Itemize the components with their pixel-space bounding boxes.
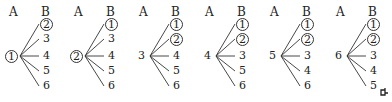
tree-panel-6: AB612345	[327, 0, 391, 102]
leaf-node: 2	[301, 33, 314, 46]
leaf-node: 3	[367, 50, 380, 61]
column-label-a: A	[205, 6, 214, 18]
tree-panel-3: AB312456	[130, 0, 194, 102]
root-node: 2	[70, 50, 83, 63]
leaf-node: 2	[367, 33, 380, 46]
tree-panel-2: AB213456	[65, 0, 129, 102]
column-label-b: B	[106, 6, 115, 18]
leaf-node: 1	[367, 18, 380, 31]
leaf-node: 2	[40, 18, 53, 31]
column-label-b: B	[41, 6, 50, 18]
leaf-node: 1	[301, 18, 314, 31]
root-node: 4	[201, 50, 214, 61]
leaf-node: 3	[105, 33, 118, 44]
root-node: 3	[135, 50, 148, 61]
column-label-b: B	[171, 6, 180, 18]
leaf-node: 5	[236, 65, 249, 76]
column-label-b: B	[302, 6, 311, 18]
leaf-node: 3	[40, 33, 53, 44]
leaf-node: 6	[105, 80, 118, 91]
tree-panel-1: AB123456	[0, 0, 64, 102]
leaf-node: 4	[301, 65, 314, 76]
root-node: 5	[266, 50, 279, 61]
leaf-node: 4	[105, 50, 118, 61]
leaf-node: 2	[236, 33, 249, 46]
leaf-node: 5	[367, 80, 380, 91]
column-label-a: A	[270, 6, 279, 18]
column-label-a: A	[9, 6, 18, 18]
column-label-a: A	[74, 6, 83, 18]
leaf-node: 4	[40, 50, 53, 61]
leaf-node: 3	[236, 50, 249, 61]
leaf-node: 5	[40, 65, 53, 76]
leaf-node: 2	[170, 33, 183, 46]
leaf-node: 1	[105, 18, 118, 31]
column-label-a: A	[336, 6, 345, 18]
column-label-b: B	[368, 6, 377, 18]
leaf-node: 6	[40, 80, 53, 91]
column-label-a: A	[139, 6, 148, 18]
root-node: 1	[5, 50, 18, 63]
leaf-node: 5	[105, 65, 118, 76]
end-mark-icon	[380, 88, 389, 96]
leaf-node: 1	[236, 18, 249, 31]
leaf-node: 3	[301, 50, 314, 61]
column-label-b: B	[237, 6, 246, 18]
leaf-node: 4	[170, 50, 183, 61]
leaf-node: 1	[170, 18, 183, 31]
root-node: 6	[332, 50, 345, 61]
tree-panel-4: AB412356	[196, 0, 260, 102]
leaf-node: 6	[170, 80, 183, 91]
leaf-node: 6	[301, 80, 314, 91]
tree-panel-5: AB512346	[261, 0, 325, 102]
leaf-node: 5	[170, 65, 183, 76]
leaf-node: 6	[236, 80, 249, 91]
leaf-node: 4	[367, 65, 380, 76]
